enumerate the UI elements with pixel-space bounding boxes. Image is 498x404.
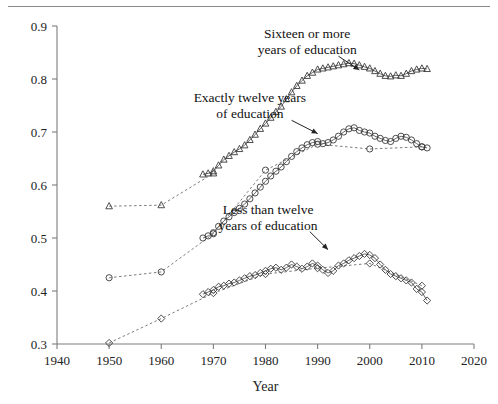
series-4 xyxy=(106,260,426,347)
x-tick-label: 1950 xyxy=(96,353,122,368)
x-axis-ticks: 194019501960197019801990200020102020 xyxy=(44,344,487,368)
series-5 xyxy=(199,250,430,304)
data-point-circle xyxy=(262,167,268,173)
annotation-sixteen-plus: Sixteen or moreyears of education xyxy=(258,26,360,70)
y-tick-label: 0.8 xyxy=(31,72,47,87)
x-tick-label: 2000 xyxy=(357,353,383,368)
education-trend-chart: 0.30.40.50.60.70.80.91940195019601970198… xyxy=(0,0,498,404)
series-line xyxy=(109,263,422,343)
annotation-line: Exactly twelve years xyxy=(194,90,306,105)
annotation-text: Sixteen or moreyears of education xyxy=(258,26,357,57)
y-tick-label: 0.7 xyxy=(31,125,48,140)
annotation-line: Less than twelve xyxy=(223,202,314,217)
annotation-line: years of education xyxy=(219,218,318,233)
x-axis-title: Year xyxy=(253,379,279,394)
annotation-text: Less than twelveyears of education xyxy=(219,202,318,233)
y-tick-label: 0.3 xyxy=(31,337,47,352)
x-tick-label: 1990 xyxy=(305,353,331,368)
x-tick-label: 1970 xyxy=(200,353,226,368)
y-axis-ticks: 0.30.40.50.60.70.80.9 xyxy=(31,19,57,352)
annotation-line: of education xyxy=(216,106,283,121)
annotation-less-than-twelve: Less than twelveyears of education xyxy=(219,202,328,250)
annotation-line: Sixteen or more xyxy=(264,26,350,41)
figure-container: 0.30.40.50.60.70.80.91940195019601970198… xyxy=(0,0,498,404)
annotation-text: Exactly twelve yearsof education xyxy=(194,90,306,121)
y-tick-label: 0.5 xyxy=(31,231,47,246)
x-tick-label: 2020 xyxy=(461,353,487,368)
data-point-triangle xyxy=(106,203,113,209)
annotation-exactly-twelve: Exactly twelve yearsof education xyxy=(194,90,318,134)
data-point-diamond xyxy=(158,315,165,322)
y-tick-label: 0.4 xyxy=(31,284,48,299)
annotation-line: years of education xyxy=(258,42,357,57)
x-tick-label: 1960 xyxy=(148,353,174,368)
x-tick-label: 1980 xyxy=(253,353,279,368)
x-tick-label: 1940 xyxy=(44,353,70,368)
y-tick-label: 0.9 xyxy=(31,19,47,34)
x-tick-label: 2010 xyxy=(409,353,435,368)
y-tick-label: 0.6 xyxy=(31,178,48,193)
